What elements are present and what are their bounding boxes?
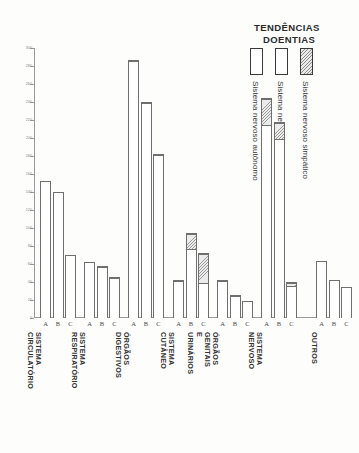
bar-segment-1 [262,125,271,188]
bar-C [198,253,209,318]
bar-C [286,282,297,318]
bar-segment-0 [110,284,119,318]
bar-A [217,280,228,318]
bar-C [242,301,253,318]
bar-segment-0 [98,277,107,318]
bar-segment-1 [199,283,208,303]
bar-segment-1 [218,281,227,289]
y-tick-label-280: 280 [26,64,32,68]
bar-segment-0 [330,281,339,318]
bar-segment-1 [231,296,240,306]
y-axis-line [34,48,35,318]
bar-A [173,280,184,318]
x-tick-letter-B: B [97,320,108,327]
x-tick-letter-C: C [65,320,76,327]
bar-segment-0 [129,87,138,318]
x-tick-letter-A: A [316,320,327,327]
bar-segment-1 [275,139,284,244]
bar-segment-1 [142,103,151,164]
y-tick-label-140: 140 [26,190,32,194]
x-tick-letter-A: A [40,320,51,327]
bar-segment-1 [174,281,183,289]
bar-A [316,261,327,318]
y-tick-label-80: 80 [28,244,32,248]
bar-segment-0 [287,289,296,318]
x-tick-letter-B: B [274,320,285,327]
y-tick-label-260: 260 [26,82,32,86]
bar-segment-0 [231,306,240,318]
bar-group [173,48,209,318]
bar-segment-0 [342,288,351,319]
bar-segment-0 [66,256,75,318]
x-tick-letter-C: C [286,320,297,327]
y-tick-label-60: 60 [28,262,32,266]
y-tick-label-20: 20 [28,298,32,302]
bar-C [65,255,76,318]
bar-C [341,287,352,319]
bar-A [40,181,51,318]
bar-segment-0 [218,289,227,318]
bar-C [153,154,164,318]
x-tick-letter-A: A [84,320,95,327]
bar-B [329,280,340,318]
y-tick-label-100: 100 [26,226,32,230]
bar-B [53,192,64,318]
x-tick-letter-C: C [109,320,120,327]
bar-segment-0 [154,187,163,318]
x-tick-letter-B: B [53,320,64,327]
x-group-label: ÓRGÃOSDIGESTIVOS [114,332,130,378]
x-group-label: SISTEMACUTÂNEO [159,332,175,369]
x-group-label: OUTROS [310,332,318,364]
y-tick-label-160: 160 [26,172,32,176]
chart-page: TENDÊNCIAS DOENTIAS Sistema nervoso autô… [0,0,359,453]
plot-area: 0204060801001201401601802002202402602803… [34,48,334,318]
x-group-label: ÓRGÃOSGENITAISEURINÁRIOS [186,332,219,374]
x-tick-letter-A: A [261,320,272,327]
legend-title-line1: TENDÊNCIAS [254,22,320,33]
x-tick-letter-A: A [128,320,139,327]
x-axis-labels: ABCSISTEMACIRCULATÓRIOABCSISTEMARESPIRAT… [34,318,334,450]
bar-segment-1 [154,155,163,187]
x-group-label: SISTEMANERVOSO [247,332,263,369]
y-tick-label-0: 0 [30,316,32,320]
y-tick-label-220: 220 [26,118,32,122]
bar-A [128,60,139,318]
bar-B [274,122,285,318]
y-tick-label-180: 180 [26,154,32,158]
bar-segment-0 [317,262,326,318]
y-tick-label-120: 120 [26,208,32,212]
x-tick-letter-C: C [242,320,253,327]
x-tick-letter-C: C [153,320,164,327]
bar-B [186,233,197,319]
bar-group [261,48,297,318]
bar-group [128,48,164,318]
bar-group [217,48,253,318]
bar-segment-1 [187,249,196,289]
bar-segment-0 [142,164,151,318]
bar-segment-0 [174,289,183,318]
bar-C [109,277,120,318]
bar-segment-2 [199,254,208,282]
bar-segment-2 [275,123,284,139]
legend-title-line2: DOENTIAS [254,34,359,46]
bar-B [141,102,152,318]
x-tick-letter-B: B [230,320,241,327]
bar-segment-0 [187,289,196,318]
bar-segment-0 [243,302,252,318]
x-tick-letter-B: B [329,320,340,327]
x-tick-letter-A: A [173,320,184,327]
legend-title: TENDÊNCIAS DOENTIAS [254,22,359,45]
y-tick-label-40: 40 [28,280,32,284]
bar-segment-2 [187,234,196,249]
bar-A [261,98,272,319]
bar-segment-0 [262,188,271,318]
x-tick-letter-C: C [341,320,352,327]
bar-segment-0 [54,193,63,318]
bar-group [84,48,120,318]
bar-A [84,262,95,318]
bar-B [230,295,241,318]
bar-segment-2 [262,99,271,126]
y-tick-label-300: 300 [26,46,32,50]
x-tick-letter-C: C [198,320,209,327]
y-tick-label-200: 200 [26,136,32,140]
